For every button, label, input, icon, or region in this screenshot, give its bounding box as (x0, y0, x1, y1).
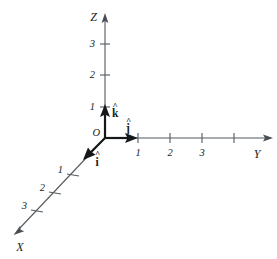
i-hat-vector-group: i ^ (83, 138, 105, 168)
y-tick-label-1: 1 (135, 147, 140, 158)
y-tick-label-3: 3 (198, 147, 204, 158)
axes-svg: 3 2 1 Z 1 2 3 Y (0, 0, 277, 259)
x-tick-label-2: 2 (40, 182, 46, 193)
x-axis-arrowhead (14, 226, 25, 235)
j-hat-accent: ^ (126, 116, 131, 126)
x-tick-label-1: 1 (58, 164, 63, 175)
x-tick-2 (49, 192, 61, 194)
coordinate-system-figure: 3 2 1 Z 1 2 3 Y (0, 0, 277, 259)
k-hat-accent: ^ (112, 101, 117, 111)
z-tick-label-3: 3 (89, 38, 95, 49)
y-axis-label: Y (254, 147, 262, 161)
y-tick-label-2: 2 (167, 147, 173, 158)
x-axis-label: X (15, 240, 24, 254)
z-tick-label-2: 2 (90, 69, 96, 80)
z-axis-group: 3 2 1 Z (89, 10, 110, 138)
z-tick-label-1: 1 (90, 101, 95, 112)
x-tick-label-3: 3 (21, 200, 27, 211)
z-axis-label: Z (90, 10, 97, 24)
origin-label: O (92, 127, 100, 138)
i-hat-accent: ^ (95, 149, 100, 159)
j-hat-vector-group: j ^ (105, 116, 138, 143)
